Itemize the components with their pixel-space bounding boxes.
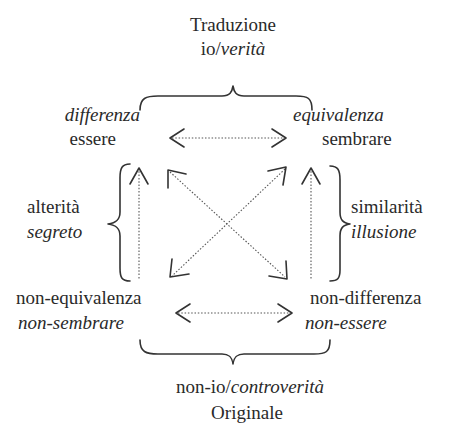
arrowhead-downleft-icon <box>170 259 189 277</box>
diagonal-connector-a <box>170 172 285 277</box>
right-brace <box>330 166 350 281</box>
left-brace <box>108 164 130 281</box>
semiotic-square-diagram: Traduzione io/verità differenza essere e… <box>0 0 468 442</box>
top-brace <box>140 86 312 110</box>
diagram-lines <box>0 0 468 442</box>
diagonal-connector-b <box>172 169 285 276</box>
bottom-brace <box>140 340 330 364</box>
